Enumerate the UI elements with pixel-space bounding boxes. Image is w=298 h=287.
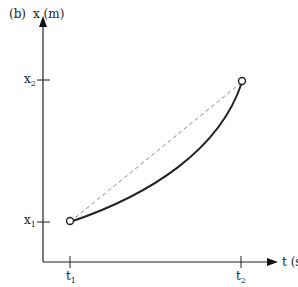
graph-canvas bbox=[0, 0, 298, 287]
t2-label: t2 bbox=[236, 269, 246, 285]
secant-line bbox=[70, 82, 242, 222]
start-point bbox=[67, 218, 74, 225]
t1-label: t1 bbox=[66, 269, 76, 285]
x1-label: x1 bbox=[24, 213, 36, 229]
panel-label: (b) bbox=[9, 7, 26, 21]
x-axis-label: t (s) bbox=[282, 255, 298, 269]
x-axis-arrow-icon bbox=[267, 258, 278, 266]
position-time-graph: (b) x (m) t (s) x2 x1 t1 t2 bbox=[0, 0, 298, 287]
end-point bbox=[239, 78, 246, 85]
y-axis-label: x (m) bbox=[33, 7, 64, 21]
x2-label: x2 bbox=[24, 72, 36, 88]
